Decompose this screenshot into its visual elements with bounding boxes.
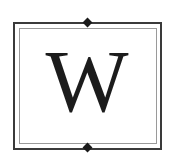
logo-letter: W: [0, 38, 172, 126]
